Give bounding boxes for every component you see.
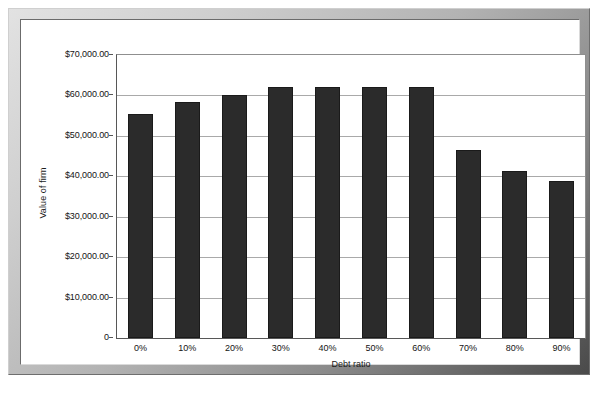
bar: [456, 150, 481, 338]
y-tick-label: $10,000.00: [65, 292, 109, 302]
y-tick-label: $30,000.00: [65, 211, 109, 221]
x-tick-label: 30%: [272, 343, 290, 353]
x-axis-title: Debt ratio: [116, 359, 586, 369]
x-tick-label: 60%: [412, 343, 430, 353]
y-tick-label: $50,000.00: [65, 130, 109, 140]
x-tick-label: 10%: [178, 343, 196, 353]
y-tick-label: $40,000.00: [65, 170, 109, 180]
picture-frame: Value of firm $70,000.00$60,000.00$50,00…: [8, 8, 590, 375]
x-tick-label: 50%: [365, 343, 383, 353]
bar: [362, 87, 387, 338]
y-tick-mark: [109, 337, 113, 338]
y-tick-mark: [109, 297, 113, 298]
y-tick-mark: [109, 54, 113, 55]
x-tick-label: 80%: [506, 343, 524, 353]
y-tick-mark: [109, 135, 113, 136]
y-tick-mark: [109, 216, 113, 217]
y-axis-ticks: $70,000.00$60,000.00$50,000.00$40,000.00…: [21, 54, 113, 337]
bar-chart: Value of firm $70,000.00$60,000.00$50,00…: [21, 20, 581, 366]
bar: [128, 114, 153, 338]
x-tick-label: 90%: [553, 343, 571, 353]
bar: [409, 87, 434, 338]
bar: [315, 87, 340, 338]
y-tick-mark: [109, 256, 113, 257]
x-tick-label: 20%: [225, 343, 243, 353]
plot-area: [116, 54, 586, 339]
screenshot-root: Value of firm $70,000.00$60,000.00$50,00…: [0, 0, 607, 396]
chart-card: Value of firm $70,000.00$60,000.00$50,00…: [20, 19, 580, 365]
bar: [502, 171, 527, 338]
y-tick-label: $20,000.00: [65, 251, 109, 261]
bar: [175, 102, 200, 338]
y-tick-label: $60,000.00: [65, 89, 109, 99]
bar: [268, 87, 293, 338]
x-axis-ticks: 0%10%20%30%40%50%60%70%80%90%: [116, 341, 586, 357]
x-tick-label: 40%: [319, 343, 337, 353]
y-tick-mark: [109, 94, 113, 95]
x-tick-label: 0%: [134, 343, 147, 353]
x-tick-label: 70%: [459, 343, 477, 353]
y-tick-label: $70,000.00: [65, 49, 109, 59]
y-tick-mark: [109, 175, 113, 176]
bar: [549, 181, 574, 338]
bar: [222, 95, 247, 338]
bar-series: [117, 55, 585, 338]
